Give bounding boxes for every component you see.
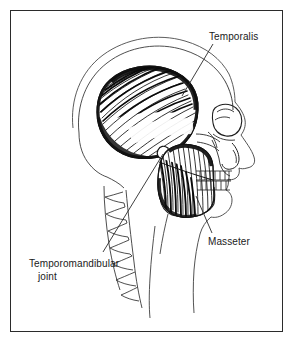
neck-profile [149,214,168,318]
facial-skeleton [208,81,242,176]
skull-illustration [0,0,295,344]
label-masseter: Masseter [208,236,250,247]
label-temporomandibular-joint: Temporomandibularjoint [29,257,119,283]
label-tmj-line2: joint [29,270,119,283]
label-tmj-line1: Temporomandibular [29,258,119,269]
temporalis-leader [182,44,213,96]
cervical-vertebrae [104,186,142,308]
label-temporalis: Temporalis [209,31,258,42]
anatomical-figure: Temporalis Masseter Temporomandibularjoi… [0,0,295,344]
